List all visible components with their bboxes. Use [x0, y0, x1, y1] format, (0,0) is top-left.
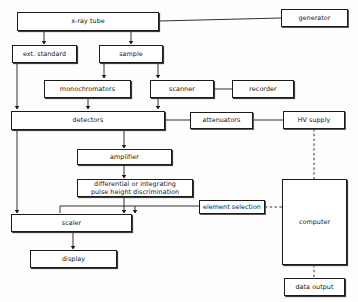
node-element-selection[interactable]: element selection — [199, 200, 265, 214]
node-detectors[interactable]: detectors — [11, 111, 165, 130]
node-scanner[interactable]: scanner — [150, 80, 214, 98]
node-xray-tube-label: x-ray tube — [69, 18, 107, 25]
node-hv-supply[interactable]: HV supply — [283, 111, 345, 129]
node-computer[interactable]: computer — [282, 179, 347, 265]
node-display-label: display — [60, 256, 87, 263]
node-ext-standard-label: ext. standard — [21, 51, 68, 58]
node-sample-label: sample — [117, 51, 145, 58]
node-monochromators-label: monochromators — [58, 86, 117, 93]
node-discrimination-label: differential or integrating pulse height… — [89, 180, 181, 196]
node-scanner-label: scanner — [167, 86, 197, 93]
node-monochromators[interactable]: monochromators — [44, 80, 131, 98]
node-detectors-label: detectors — [71, 117, 106, 124]
node-data-output[interactable]: data output — [284, 278, 345, 296]
block-diagram: x-ray tube generator ext. standard sampl… — [0, 0, 358, 302]
node-attenuators-label: attenuators — [201, 117, 243, 124]
node-hv-supply-label: HV supply — [296, 117, 333, 124]
node-discrimination[interactable]: differential or integrating pulse height… — [77, 179, 193, 197]
node-attenuators[interactable]: attenuators — [190, 112, 253, 129]
node-computer-label: computer — [297, 219, 332, 226]
node-recorder[interactable]: recorder — [232, 80, 294, 98]
node-display[interactable]: display — [30, 250, 117, 268]
node-sample[interactable]: sample — [99, 45, 163, 63]
node-scaler-label: scaler — [60, 220, 83, 227]
node-amplifier[interactable]: amplifier — [77, 149, 172, 165]
node-xray-tube[interactable]: x-ray tube — [17, 12, 159, 31]
node-generator-label: generator — [296, 15, 332, 22]
node-scaler[interactable]: scaler — [11, 214, 132, 232]
node-element-selection-label: element selection — [201, 204, 263, 211]
node-data-output-label: data output — [293, 284, 335, 291]
node-amplifier-label: amplifier — [108, 154, 141, 161]
node-generator[interactable]: generator — [281, 9, 348, 27]
node-recorder-label: recorder — [247, 86, 278, 93]
edge-xraytube-generator — [159, 18, 281, 21]
node-ext-standard[interactable]: ext. standard — [12, 45, 77, 63]
